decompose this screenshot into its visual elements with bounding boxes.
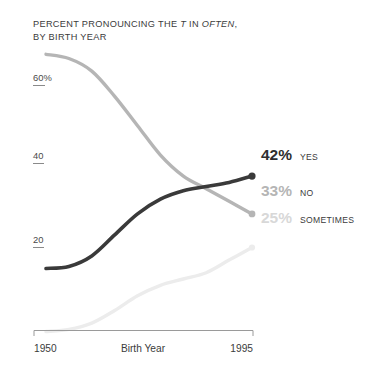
end-label-yes: 42% YES	[261, 146, 318, 163]
endpoint-dot-no	[249, 211, 256, 218]
end-label-no-value: 33%	[261, 182, 292, 199]
chart-container: PERCENT PRONOUNCING THE T IN OFTEN, BY B…	[0, 0, 375, 375]
y-tick-label-60: 60%	[33, 72, 52, 83]
line-series-sometimes	[46, 248, 252, 332]
end-label-sometimes-value: 25%	[261, 209, 292, 226]
x-axis-title: Birth Year	[121, 343, 166, 354]
x-tick-label-min: 1950	[34, 343, 57, 354]
end-label-yes-value: 42%	[261, 146, 292, 163]
y-tick-label-40: 40	[33, 150, 43, 161]
end-label-sometimes: 25% SOMETIMES	[261, 209, 354, 226]
y-tick-label-20: 20	[33, 234, 43, 245]
endpoint-dot-yes	[248, 173, 255, 180]
end-label-yes-name: YES	[300, 152, 318, 162]
y-axis-ticks: 60% 40 20	[33, 72, 52, 248]
endpoint-dot-sometimes	[249, 244, 255, 250]
end-label-no: 33% NO	[261, 182, 314, 199]
end-label-no-name: NO	[300, 188, 314, 198]
end-label-sometimes-name: SOMETIMES	[300, 215, 354, 225]
line-series-yes	[46, 176, 252, 268]
chart-plot: 60% 40 20 42% YES 33% NO 25% SOMETIMES 1…	[0, 0, 375, 375]
x-tick-label-max: 1995	[230, 343, 253, 354]
line-series-no	[46, 54, 252, 214]
